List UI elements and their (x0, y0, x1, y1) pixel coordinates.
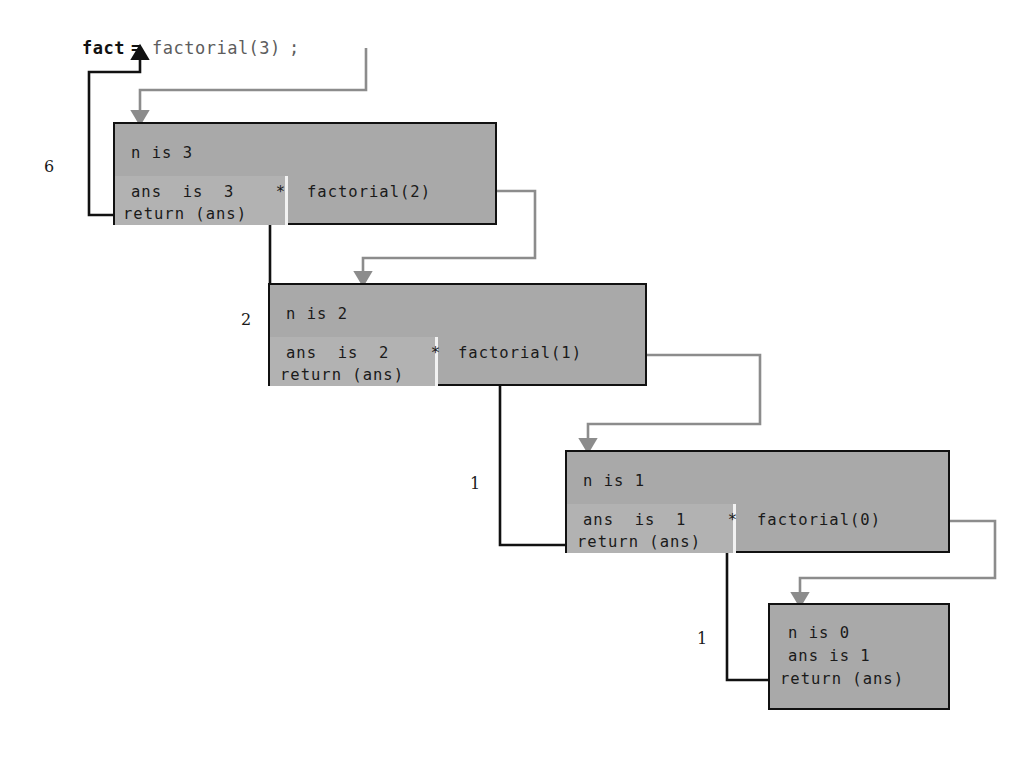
frame-n3-recursive-call: factorial(2) (307, 183, 431, 201)
frame-n0-param: n is 0 (788, 624, 850, 642)
stack-frame-n2: n is 2 ans is 2 * return (ans) factorial… (268, 283, 647, 386)
return-value-label-6: 6 (44, 157, 54, 176)
statement-semicolon: ; (289, 38, 300, 58)
return-value-label-2: 2 (241, 310, 251, 329)
stack-frame-n0: n is 0 ans is 1 return (ans) (768, 603, 950, 710)
frame-n0-return: return (ans) (780, 670, 904, 688)
frame-n0-ans: ans is 1 (788, 647, 871, 665)
stack-frame-n1: n is 1 ans is 1 * return (ans) factorial… (565, 450, 950, 553)
frame-n1-return: return (ans) (577, 533, 701, 551)
recursion-trace-diagram: fact = factorial(3) ; n is 3 ans is 3 * … (0, 0, 1028, 757)
frame-n2-param: n is 2 (286, 305, 348, 323)
frame-n1-ans: ans is 1 * (583, 511, 738, 529)
stack-frame-n3: n is 3 ans is 3 * return (ans) factorial… (113, 122, 497, 225)
return-arrow-n1-to-n2 (500, 367, 568, 545)
return-value-label-1a: 1 (470, 474, 480, 493)
frame-n1-param: n is 1 (583, 472, 645, 490)
frame-n2-return: return (ans) (280, 366, 404, 384)
statement-variable: fact (82, 38, 125, 58)
frame-n2-recursive-call: factorial(1) (458, 344, 582, 362)
statement-function-call: factorial(3) (152, 38, 281, 58)
statement-equals-sign: = (131, 38, 142, 58)
frame-n3-ans: ans is 3 * (131, 183, 286, 201)
frame-n3-param: n is 3 (131, 144, 193, 162)
frame-n3-return: return (ans) (123, 205, 247, 223)
frame-n1-recursive-call: factorial(0) (757, 511, 881, 529)
frame-n2-ans: ans is 2 * (286, 344, 441, 362)
call-arrow-main-to-n3 (140, 48, 366, 118)
return-value-label-1b: 1 (697, 629, 707, 648)
